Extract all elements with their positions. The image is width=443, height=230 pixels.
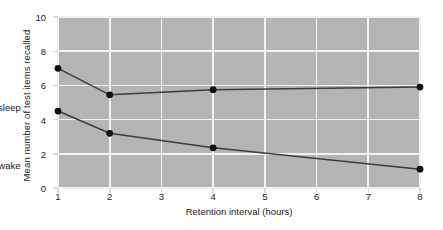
x-tick-mark [109, 188, 111, 193]
x-axis-label: Retention interval (hours) [58, 206, 420, 217]
y-tick-label: 8 [26, 46, 52, 57]
series-label-awake: Awake [0, 159, 20, 170]
chart-figure: Mean number of test items recalled 02468… [0, 0, 443, 230]
y-tick-mark [53, 85, 58, 87]
y-tick-mark [53, 187, 58, 189]
series-label-asleep: Asleep [0, 101, 21, 112]
x-tick-mark [161, 188, 163, 193]
y-tick-mark [53, 153, 58, 155]
data-point-asleep [210, 86, 217, 93]
y-tick-mark [53, 119, 58, 121]
series-layer [58, 17, 420, 188]
plot-area: AsleepAwake [58, 17, 420, 188]
x-tick-mark [419, 188, 421, 193]
y-tick-label: 4 [26, 114, 52, 125]
y-tick-label: 0 [26, 183, 52, 194]
series-line-awake [58, 111, 420, 169]
y-tick-mark [53, 51, 58, 53]
data-point-awake [417, 166, 424, 173]
data-point-asleep [417, 84, 424, 91]
x-tick-mark [316, 188, 318, 193]
y-tick-mark [53, 16, 58, 18]
data-point-asleep [106, 91, 113, 98]
x-tick-mark [264, 188, 266, 193]
y-tick-label: 10 [26, 12, 52, 23]
y-tick-label: 6 [26, 80, 52, 91]
data-point-awake [55, 108, 62, 115]
y-axis-tick-labels: 0246810 [26, 0, 52, 230]
data-point-asleep [55, 65, 62, 72]
data-point-awake [106, 130, 113, 137]
x-tick-mark [212, 188, 214, 193]
series-line-asleep [58, 68, 420, 95]
x-tick-mark [368, 188, 370, 193]
data-point-awake [210, 144, 217, 151]
y-tick-label: 2 [26, 148, 52, 159]
